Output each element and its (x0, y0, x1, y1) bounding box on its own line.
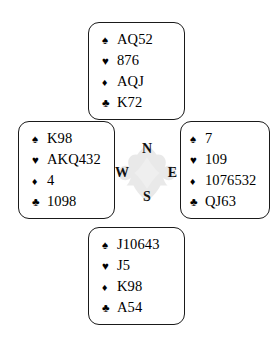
diamond-icon: ♦ (102, 277, 117, 298)
south-club-cards: A54 (117, 297, 142, 318)
club-icon: ♣ (102, 93, 117, 114)
north-spade-cards: AQ52 (117, 29, 153, 50)
hand-south: ♠ J10643 ♥ J5 ♦ K98 ♣ A54 (88, 227, 185, 325)
spade-icon: ♠ (102, 235, 117, 256)
compass-label-north: N (114, 142, 180, 156)
east-heart-row: ♥ 109 (181, 149, 269, 170)
south-spade-row: ♠ J10643 (89, 234, 184, 255)
club-icon: ♣ (190, 192, 205, 213)
south-diamond-row: ♦ K98 (89, 276, 184, 297)
compass-label-west: W (115, 166, 129, 180)
west-club-row: ♣ 1098 (19, 191, 114, 212)
heart-icon: ♥ (32, 150, 47, 171)
bridge-deal-diagram: ♠ AQ52 ♥ 876 ♦ AQJ ♣ K72 ♠ K98 ♥ AKQ432 … (0, 0, 273, 340)
spade-icon: ♠ (32, 129, 47, 150)
heart-icon: ♥ (102, 256, 117, 277)
spade-icon: ♠ (190, 129, 205, 150)
east-diamond-cards: 1076532 (205, 170, 256, 191)
south-spade-cards: J10643 (117, 234, 160, 255)
south-heart-cards: J5 (117, 255, 130, 276)
compass-rose: N W E S (114, 140, 180, 206)
north-club-cards: K72 (117, 92, 142, 113)
heart-icon: ♥ (190, 150, 205, 171)
compass-label-south: S (114, 190, 180, 204)
east-heart-cards: 109 (205, 149, 227, 170)
north-heart-row: ♥ 876 (89, 50, 184, 71)
heart-icon: ♥ (102, 51, 117, 72)
north-heart-cards: 876 (117, 50, 139, 71)
diamond-icon: ♦ (102, 72, 117, 93)
compass-label-east: E (168, 166, 177, 180)
east-club-row: ♣ QJ63 (181, 191, 269, 212)
hand-west: ♠ K98 ♥ AKQ432 ♦ 4 ♣ 1098 (18, 121, 115, 219)
north-diamond-cards: AQJ (117, 71, 144, 92)
north-club-row: ♣ K72 (89, 92, 184, 113)
west-spade-row: ♠ K98 (19, 128, 114, 149)
west-diamond-row: ♦ 4 (19, 170, 114, 191)
north-diamond-row: ♦ AQJ (89, 71, 184, 92)
west-heart-row: ♥ AKQ432 (19, 149, 114, 170)
east-spade-row: ♠ 7 (181, 128, 269, 149)
south-club-row: ♣ A54 (89, 297, 184, 318)
diamond-icon: ♦ (190, 171, 205, 192)
club-icon: ♣ (32, 192, 47, 213)
spade-icon: ♠ (102, 30, 117, 51)
west-diamond-cards: 4 (47, 170, 54, 191)
east-spade-cards: 7 (205, 128, 212, 149)
west-spade-cards: K98 (47, 128, 72, 149)
north-spade-row: ♠ AQ52 (89, 29, 184, 50)
hand-north: ♠ AQ52 ♥ 876 ♦ AQJ ♣ K72 (88, 22, 185, 120)
south-diamond-cards: K98 (117, 276, 142, 297)
diamond-icon: ♦ (32, 171, 47, 192)
hand-east: ♠ 7 ♥ 109 ♦ 1076532 ♣ QJ63 (180, 121, 270, 219)
west-club-cards: 1098 (47, 191, 76, 212)
west-heart-cards: AKQ432 (47, 149, 101, 170)
east-club-cards: QJ63 (205, 191, 236, 212)
south-heart-row: ♥ J5 (89, 255, 184, 276)
east-diamond-row: ♦ 1076532 (181, 170, 269, 191)
club-icon: ♣ (102, 298, 117, 319)
